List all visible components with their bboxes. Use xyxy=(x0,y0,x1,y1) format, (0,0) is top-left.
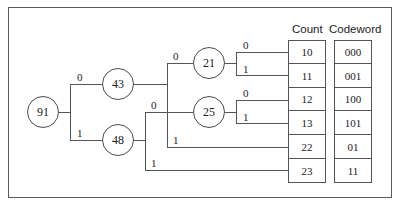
edge-48-to-25 xyxy=(145,112,193,113)
edge-25-junction xyxy=(236,100,237,124)
edge-91-to-43 xyxy=(70,84,102,85)
branch-label-43-0: 0 xyxy=(173,51,179,62)
branch-label-21-0: 0 xyxy=(243,40,249,51)
branch-label-91-0: 0 xyxy=(77,72,83,83)
edge-43-junction xyxy=(167,63,168,148)
edge-25-stub xyxy=(225,112,236,113)
edge-21-stub xyxy=(225,63,236,64)
edge-91-to-48 xyxy=(70,140,102,141)
branch-label-25-1: 1 xyxy=(243,112,249,123)
tree-node-43: 43 xyxy=(102,68,134,100)
count-cell: 22 xyxy=(288,134,326,159)
branch-label-48-1: 1 xyxy=(151,158,157,169)
count-cell: 12 xyxy=(288,87,326,111)
edge-48-junction xyxy=(145,112,146,171)
branch-label-21-1: 1 xyxy=(243,64,249,75)
branch-label-91-1: 1 xyxy=(77,128,83,139)
tree-node-91: 91 xyxy=(27,96,59,128)
edge-25-to-12 xyxy=(236,100,288,101)
edge-21-to-11 xyxy=(236,75,288,76)
count-cell: 11 xyxy=(288,63,326,88)
codeword-cell: 000 xyxy=(334,40,372,64)
codeword-cell: 100 xyxy=(334,87,372,111)
codeword-cell: 101 xyxy=(334,110,372,135)
codeword-column-header: Codeword xyxy=(329,23,381,35)
edge-43-to-21 xyxy=(167,63,193,64)
edge-91-junction xyxy=(70,84,71,141)
tree-node-48: 48 xyxy=(102,124,134,156)
codeword-cell: 01 xyxy=(334,134,372,159)
count-cell: 23 xyxy=(288,158,326,183)
edge-48-to-23 xyxy=(145,170,288,171)
edge-21-junction xyxy=(236,52,237,76)
edge-21-to-10 xyxy=(236,52,288,53)
edge-48-stub xyxy=(134,140,145,141)
edge-25-to-13 xyxy=(236,123,288,124)
branch-label-25-0: 0 xyxy=(243,88,249,99)
branch-label-43-1: 1 xyxy=(173,135,179,146)
edge-91-stub xyxy=(59,112,70,113)
tree-node-25: 25 xyxy=(193,96,225,128)
codeword-cell: 001 xyxy=(334,63,372,88)
codeword-cell: 11 xyxy=(334,158,372,183)
edge-43-stub xyxy=(134,84,167,85)
huffman-tree-diagram: 0 1 0 1 0 1 0 1 0 1 91 43 48 21 25 Count… xyxy=(0,0,399,209)
edge-43-to-22 xyxy=(167,147,288,148)
count-cell: 10 xyxy=(288,40,326,64)
count-column-header: Count xyxy=(292,23,323,35)
count-cell: 13 xyxy=(288,110,326,135)
branch-label-48-0: 0 xyxy=(151,100,157,111)
tree-node-21: 21 xyxy=(193,47,225,79)
